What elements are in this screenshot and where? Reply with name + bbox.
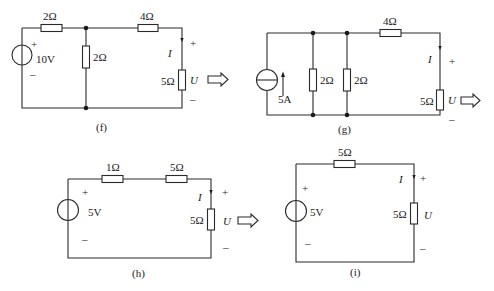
caption: (g) <box>338 123 351 136</box>
node-dot <box>84 106 89 111</box>
caption: (f) <box>96 121 107 134</box>
caption: (i) <box>350 266 361 279</box>
resistor-icon <box>138 25 158 32</box>
resistor-icon <box>208 209 215 230</box>
resistor-label: 2Ω <box>43 10 57 22</box>
resistor-label: 1Ω <box>106 161 120 173</box>
minus-sign: – <box>448 113 455 125</box>
resistor-icon <box>102 176 123 183</box>
circuit-i: + 5V – 5Ω I + 5Ω U – (i) <box>286 146 434 279</box>
resistor-icon <box>344 69 351 91</box>
resistor-label: 5Ω <box>161 75 175 87</box>
source-direction-arrow-icon <box>281 72 285 78</box>
current-label: I <box>167 47 173 59</box>
source-value: 5V <box>310 206 324 218</box>
resistor-label: 5Ω <box>338 146 352 158</box>
node-dot <box>311 31 316 36</box>
voltage-label: U <box>223 215 232 227</box>
resistor-icon <box>83 46 90 68</box>
source-plus: + <box>31 38 37 50</box>
current-label: I <box>427 53 433 65</box>
circuit-f: + 10V – 2Ω 2Ω 4Ω I + 5Ω U – (f) <box>12 10 199 134</box>
current-arrow-icon <box>209 190 212 194</box>
source-value: 5A <box>278 93 292 105</box>
right-arrow-icon <box>238 214 258 227</box>
resistor-icon <box>310 69 317 91</box>
resistor-label: 2Ω <box>320 74 334 86</box>
plus-sign: + <box>222 186 228 198</box>
resistor-label: 4Ω <box>383 15 397 27</box>
resistor-icon <box>41 25 62 32</box>
resistor-icon <box>334 161 355 168</box>
source-plus: + <box>302 182 308 194</box>
node-dot <box>345 31 350 36</box>
resistor-label: 5Ω <box>420 95 434 107</box>
current-arrow-icon <box>412 175 415 179</box>
plus-sign: + <box>420 172 426 184</box>
current-label: I <box>197 191 203 203</box>
resistor-label: 5Ω <box>170 161 184 173</box>
resistor-label: 5Ω <box>393 208 407 220</box>
resistor-icon <box>411 203 418 224</box>
voltage-label: U <box>424 209 433 221</box>
resistor-icon <box>380 30 401 37</box>
node-dot <box>345 113 350 118</box>
plus-sign: + <box>449 55 455 67</box>
resistor-icon <box>179 70 186 90</box>
voltage-label: U <box>190 74 199 86</box>
circuit-g: 5A 2Ω 2Ω 4Ω I + 5Ω U – (g) <box>257 15 458 136</box>
minus-sign: – <box>419 242 426 254</box>
plus-sign: + <box>190 37 196 49</box>
current-arrow-icon <box>180 38 183 42</box>
current-label: I <box>398 173 404 185</box>
current-arrow-icon <box>438 46 441 50</box>
node-dot <box>84 26 89 31</box>
source-value: 10V <box>36 53 55 65</box>
circuit-figure: + 10V – 2Ω 2Ω 4Ω I + 5Ω U – (f) 5A <box>0 0 494 291</box>
resistor-label: 2Ω <box>93 51 107 63</box>
resistor-icon <box>166 176 187 183</box>
source-minus: – <box>304 237 311 249</box>
minus-sign: – <box>222 241 229 253</box>
resistor-label: 2Ω <box>354 74 368 86</box>
node-dot <box>311 113 316 118</box>
minus-sign: – <box>189 93 196 105</box>
source-value: 5V <box>88 206 102 218</box>
resistor-icon <box>437 90 444 110</box>
right-arrow-icon <box>208 73 228 86</box>
resistor-label: 5Ω <box>190 214 204 226</box>
source-minus: – <box>81 233 88 245</box>
voltage-label: U <box>448 94 457 106</box>
circuit-h: + 5V – 1Ω 5Ω I + 5Ω U – (h) <box>58 161 233 280</box>
resistor-label: 4Ω <box>140 10 154 22</box>
source-minus: – <box>29 68 36 80</box>
source-plus: + <box>82 186 88 198</box>
right-arrow-icon <box>461 94 480 107</box>
caption: (h) <box>132 267 145 280</box>
